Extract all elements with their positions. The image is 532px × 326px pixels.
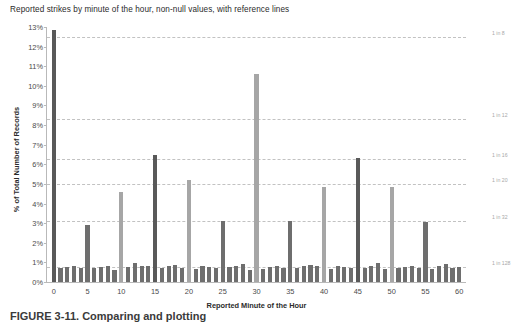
y-axis-tick-mark <box>44 282 47 283</box>
y-axis-tick-label: 1% <box>32 258 43 267</box>
reference-line-label: 1 in 32 <box>492 214 508 220</box>
y-axis-tick-label: 0% <box>32 278 43 287</box>
y-axis-tick-mark <box>44 243 47 244</box>
reference-line-label: 1 in 12 <box>492 112 508 118</box>
x-axis-tick-label: 60 <box>455 287 463 296</box>
bar[interactable] <box>403 267 407 282</box>
bar[interactable] <box>65 267 69 282</box>
bar[interactable] <box>336 266 340 282</box>
bar[interactable] <box>207 267 211 282</box>
bar[interactable] <box>140 266 144 282</box>
bar[interactable] <box>214 268 218 282</box>
bar[interactable] <box>254 74 258 282</box>
bar[interactable] <box>363 268 367 282</box>
bar[interactable] <box>106 266 110 282</box>
bar[interactable] <box>383 269 387 282</box>
bar[interactable] <box>295 268 299 282</box>
bar[interactable] <box>85 225 89 282</box>
bar[interactable] <box>58 268 62 282</box>
bar[interactable] <box>308 265 312 282</box>
bar[interactable] <box>457 267 461 282</box>
bar[interactable] <box>160 268 164 282</box>
bar[interactable] <box>268 267 272 282</box>
chart-page: Reported strikes by minute of the hour, … <box>0 0 532 326</box>
bar[interactable] <box>430 269 434 282</box>
bar[interactable] <box>119 192 123 282</box>
y-axis-tick-mark <box>44 27 47 28</box>
bar[interactable] <box>302 266 306 282</box>
bar[interactable] <box>241 264 245 282</box>
y-axis-tick-label: 13% <box>28 23 43 32</box>
bar[interactable] <box>315 266 319 282</box>
reference-line-label: 1 in 8 <box>492 30 505 36</box>
bar[interactable] <box>342 267 346 282</box>
chart-title: Reported strikes by minute of the hour, … <box>10 5 289 14</box>
reference-line-label: 1 in 128 <box>492 260 510 266</box>
bar[interactable] <box>444 264 448 282</box>
y-axis-tick-mark <box>44 66 47 67</box>
x-axis-tick-label: 15 <box>151 287 159 296</box>
bar[interactable] <box>79 268 83 282</box>
bar[interactable] <box>437 266 441 282</box>
bar[interactable] <box>450 268 454 282</box>
bar[interactable] <box>92 268 96 282</box>
bar[interactable] <box>396 268 400 282</box>
bar[interactable] <box>221 221 225 282</box>
bar[interactable] <box>423 222 427 282</box>
y-axis-tick-label: 12% <box>28 42 43 51</box>
bar[interactable] <box>234 266 238 282</box>
plot-inner: 1 in 81 in 121 in 161 in 201 in 321 in 1… <box>47 27 466 282</box>
bar[interactable] <box>390 187 394 282</box>
bar[interactable] <box>356 158 360 282</box>
bar[interactable] <box>112 270 116 282</box>
bar[interactable] <box>133 263 137 282</box>
figure-caption: FIGURE 3-11. Comparing and plotting <box>10 310 206 326</box>
y-axis-tick-mark <box>44 86 47 87</box>
bar[interactable] <box>187 180 191 282</box>
x-axis-tick-label: 55 <box>421 287 429 296</box>
y-axis-tick-label: 7% <box>32 140 43 149</box>
x-axis-tick-label: 5 <box>85 287 89 296</box>
y-axis-tick-label: 3% <box>32 219 43 228</box>
bar[interactable] <box>126 267 130 282</box>
bar[interactable] <box>322 187 326 282</box>
bar[interactable] <box>200 266 204 282</box>
x-axis-tick-label: 0 <box>52 287 56 296</box>
bar[interactable] <box>153 155 157 282</box>
bar[interactable] <box>72 266 76 282</box>
x-axis-tick-label: 40 <box>320 287 328 296</box>
y-axis-tick-label: 8% <box>32 121 43 130</box>
bar[interactable] <box>167 266 171 282</box>
y-axis-tick-mark <box>44 262 47 263</box>
bar[interactable] <box>329 269 333 282</box>
bar[interactable] <box>173 265 177 282</box>
bar[interactable] <box>275 266 279 282</box>
y-axis-title: % of Total Number of Records <box>12 69 21 249</box>
bar[interactable] <box>410 266 414 282</box>
bar[interactable] <box>261 269 265 282</box>
x-axis-title: Reported Minute of the Hour <box>47 301 466 310</box>
bar[interactable] <box>349 268 353 282</box>
y-axis-tick-mark <box>44 125 47 126</box>
y-axis-tick-mark <box>44 105 47 106</box>
x-axis-tick-label: 45 <box>354 287 362 296</box>
y-axis-tick-label: 4% <box>32 199 43 208</box>
bar[interactable] <box>288 221 292 282</box>
bar[interactable] <box>99 267 103 282</box>
bar[interactable] <box>376 263 380 282</box>
bar[interactable] <box>281 268 285 283</box>
bar[interactable] <box>146 266 150 282</box>
bar[interactable] <box>248 270 252 282</box>
bar[interactable] <box>180 268 184 283</box>
y-axis-tick-mark <box>44 223 47 224</box>
y-axis-tick-mark <box>44 164 47 165</box>
bar[interactable] <box>194 269 198 282</box>
bar[interactable] <box>369 266 373 282</box>
y-axis-tick-label: 5% <box>32 179 43 188</box>
bar[interactable] <box>227 267 231 282</box>
x-axis-tick-label: 50 <box>388 287 396 296</box>
plot-area: % of Total Number of Records 1 in 81 in … <box>46 27 466 283</box>
bar[interactable] <box>52 30 56 282</box>
bar[interactable] <box>417 268 421 283</box>
x-axis-tick-label: 25 <box>219 287 227 296</box>
